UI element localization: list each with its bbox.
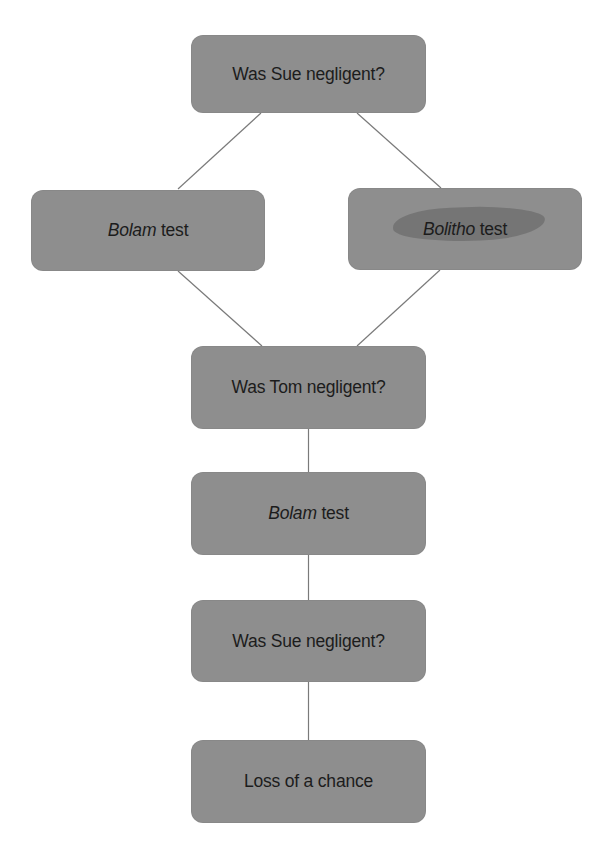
node-bolitho-test: Bolitho test [348,188,582,270]
node-label: Was Tom negligent? [232,377,386,398]
node-was-tom-negligent: Was Tom negligent? [191,346,426,429]
node-label: Bolitho test [423,219,507,240]
node-loss-of-a-chance: Loss of a chance [191,740,426,823]
node-label: Loss of a chance [244,771,373,792]
node-was-sue-negligent-bottom: Was Sue negligent? [191,600,426,682]
node-label: Was Sue negligent? [232,631,384,652]
edge-n2-n4 [178,271,262,346]
node-was-sue-negligent-top: Was Sue negligent? [191,35,426,113]
node-label: Bolam test [108,220,189,241]
node-label: Was Sue negligent? [232,64,384,85]
edge-n3-n4 [357,270,440,346]
node-label: Bolam test [268,503,349,524]
edge-n1-n2 [178,113,261,189]
node-bolam-test-left: Bolam test [31,190,265,271]
edge-n1-n3 [357,113,441,188]
node-bolam-test-center: Bolam test [191,472,426,555]
